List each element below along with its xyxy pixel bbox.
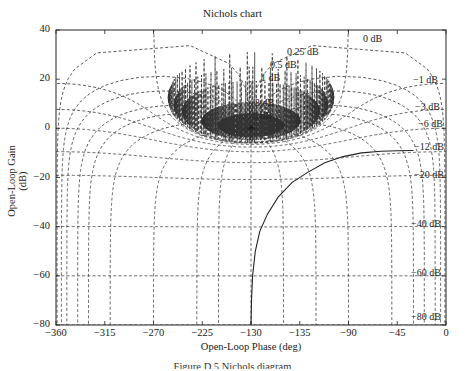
m-contour-label: −20 dB bbox=[414, 169, 444, 180]
nichols-grid bbox=[56, 0, 446, 325]
m-contour-label: 0 dB bbox=[363, 33, 382, 44]
n-contour bbox=[110, 123, 250, 325]
x-tick-label: −90 bbox=[329, 327, 369, 338]
m-contour-label: −40 dB bbox=[411, 218, 441, 229]
x-tick-label: −45 bbox=[377, 327, 417, 338]
n-contour bbox=[251, 105, 424, 325]
m-contour-label: −1 dB bbox=[413, 74, 438, 85]
y-tick-label: −60 bbox=[0, 269, 50, 280]
nichols-plot bbox=[0, 0, 465, 371]
n-contour bbox=[89, 114, 251, 326]
n-contour bbox=[78, 105, 251, 325]
y-tick-label: −40 bbox=[0, 220, 50, 231]
x-tick-label: −315 bbox=[85, 327, 125, 338]
m-contour-label: −60 dB bbox=[411, 267, 441, 278]
x-tick-label: 0 bbox=[426, 327, 465, 338]
x-tick-label: −130 bbox=[231, 327, 271, 338]
y-tick-label: 0 bbox=[0, 121, 50, 132]
n-contour bbox=[251, 114, 413, 326]
y-tick-label: 20 bbox=[0, 72, 50, 83]
response-curve bbox=[251, 151, 414, 326]
m-contour-label: −6 dB bbox=[418, 118, 443, 129]
y-tick-label: −20 bbox=[0, 171, 50, 182]
m-contour-label: 0.5 dB bbox=[270, 59, 297, 70]
x-axis-label: Open-Loop Phase (deg) bbox=[56, 341, 446, 352]
m-contour-label: 0.25 dB bbox=[287, 46, 319, 57]
m-contour-label: 6 dB bbox=[253, 110, 272, 121]
y-tick-label: 40 bbox=[0, 23, 50, 34]
m-contour-label: −80 dB bbox=[411, 311, 441, 322]
m-contour-label: −12 dB bbox=[414, 141, 444, 152]
x-tick-label: −360 bbox=[36, 327, 76, 338]
n-contour bbox=[252, 123, 392, 325]
m-contour-label: −3 dB bbox=[415, 101, 440, 112]
response-line bbox=[251, 151, 414, 326]
x-tick-label: −270 bbox=[134, 327, 174, 338]
n-contour bbox=[251, 76, 441, 325]
x-tick-label: −135 bbox=[280, 327, 320, 338]
x-tick-label: −225 bbox=[182, 327, 222, 338]
m-contour-label: 1 dB bbox=[261, 72, 280, 83]
m-contour-label: 3 dB bbox=[255, 97, 274, 108]
